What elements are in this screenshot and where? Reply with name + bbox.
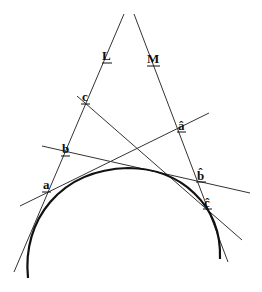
circle-arc (27, 168, 220, 278)
tangent-line-c (77, 96, 242, 240)
label-b: b (62, 141, 69, 156)
tangent-lines-diagram: L M c b a â b̂ ĉ (0, 0, 262, 292)
label-L: L (102, 48, 111, 63)
label-c: c (82, 89, 88, 104)
label-c-hat: ĉ (204, 195, 210, 210)
label-b-hat: b̂ (197, 168, 204, 183)
label-a-hat: â (178, 118, 185, 133)
label-a: a (43, 177, 50, 192)
label-M: M (147, 51, 159, 66)
